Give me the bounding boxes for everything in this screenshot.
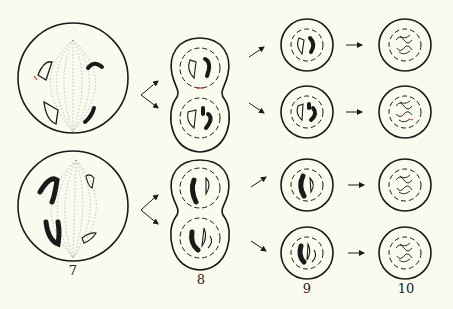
branch-arrows-top [141,81,158,108]
chromatid-outline [82,233,96,243]
stage-9-cell [281,227,333,279]
stage-10-cell [379,86,431,138]
chromatid-outline [44,102,58,124]
stage-label-8: 8 [197,272,205,287]
chromatid-outline [86,175,94,188]
branch-arrows-bottom [141,195,158,224]
nuclear-envelope [180,218,220,258]
stage-7-bottom-cell [18,151,128,261]
red-mark [34,76,37,80]
arrows-9-to-10 [346,45,364,253]
stage-8-top-cell [171,38,229,152]
stage-9-cell [281,19,333,71]
chromatid-solid [88,64,102,68]
nuclear-envelope [180,48,220,88]
stage-8-bottom-cell [171,160,229,270]
stage-10-cell [379,227,431,279]
chromatid-outline [38,62,52,80]
chromatid-solid [85,108,94,122]
nuclear-envelope [180,168,220,208]
stage-7-top-cell [18,23,128,133]
arrows-8-to-9 [249,47,266,251]
stage-10-cells [379,19,431,279]
stage-label-9: 9 [303,281,311,296]
chromatid-solid [46,222,59,244]
stage-10-cell [379,159,431,211]
chromatid-solid [40,179,57,202]
stage-label-10: 10 [398,281,415,296]
stage-label-7: 7 [69,263,77,278]
stage-9-cell [281,86,333,138]
nuclear-envelope [180,98,220,138]
stage-10-cell [379,19,431,71]
stage-9-cell [281,159,333,211]
stage-9-cells [281,19,333,279]
